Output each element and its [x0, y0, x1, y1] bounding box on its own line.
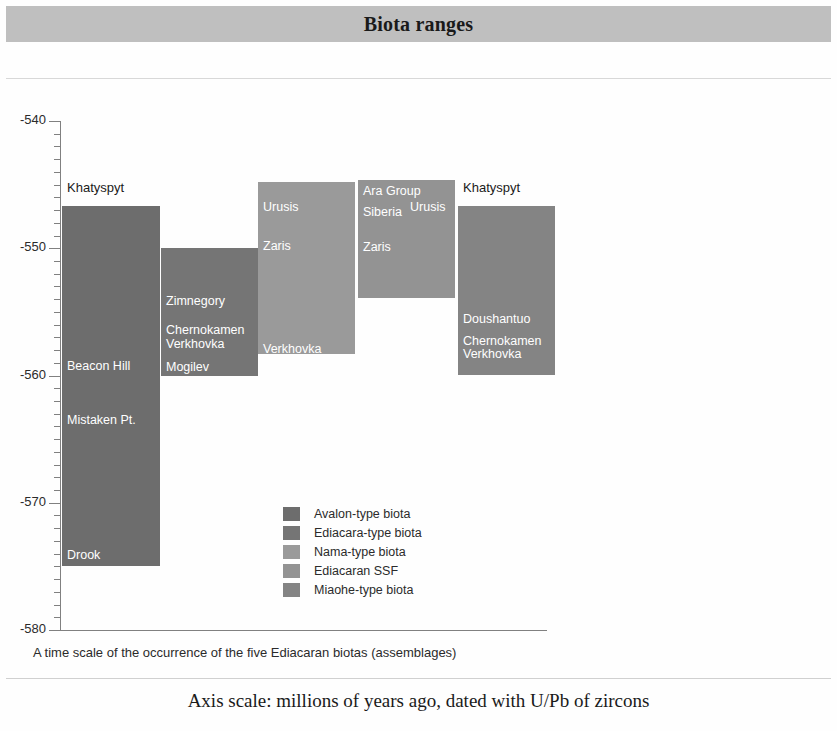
y-tick-minor: [54, 299, 60, 300]
y-tick-minor: [54, 401, 60, 402]
y-tick-major: [49, 503, 60, 504]
bar-annotation: Chernokamen: [166, 323, 245, 337]
bar-annotation: Doushantuo: [463, 312, 530, 326]
legend-swatch-icon: [283, 507, 300, 521]
y-tick-minor: [54, 350, 60, 351]
y-tick-minor: [54, 363, 60, 364]
legend-item[interactable]: Nama-type biota: [283, 542, 422, 561]
y-axis-label: -550: [0, 239, 46, 254]
bar-annotation: Mistaken Pt.: [67, 413, 136, 427]
legend-label: Miaohe-type biota: [314, 583, 413, 597]
y-tick-minor: [54, 261, 60, 262]
bar-annotation: Ara Group: [363, 184, 421, 198]
y-tick-major: [49, 121, 60, 122]
y-tick-minor: [54, 477, 60, 478]
y-tick-minor: [54, 452, 60, 453]
bar-annotation: Zimnegory: [166, 294, 225, 308]
y-tick-minor: [54, 592, 60, 593]
bar-annotation: Urusis: [410, 200, 445, 214]
y-tick-minor: [54, 312, 60, 313]
y-tick-minor: [54, 172, 60, 173]
y-tick-minor: [54, 554, 60, 555]
y-tick-minor: [54, 223, 60, 224]
legend-swatch-icon: [283, 583, 300, 597]
legend-label: Avalon-type biota: [314, 507, 410, 521]
legend-item[interactable]: Ediacaran SSF: [283, 561, 422, 580]
bar-annotation: Zaris: [363, 240, 391, 254]
y-axis-label: -540: [0, 112, 46, 127]
y-tick-minor: [54, 515, 60, 516]
legend-item[interactable]: Miaohe-type biota: [283, 580, 422, 599]
bar-annotation: Mogilev: [166, 360, 209, 374]
y-tick-minor: [54, 617, 60, 618]
y-tick-minor: [54, 426, 60, 427]
y-tick-minor: [54, 465, 60, 466]
bar-annotation: Khatyspyt: [463, 180, 520, 195]
y-tick-minor: [54, 414, 60, 415]
y-tick-minor: [54, 185, 60, 186]
legend-label: Ediacara-type biota: [314, 526, 422, 540]
y-tick-major: [49, 248, 60, 249]
y-tick-minor: [54, 286, 60, 287]
y-tick-minor: [54, 566, 60, 567]
legend-label: Nama-type biota: [314, 545, 406, 559]
figure-caption: A time scale of the occurrence of the fi…: [33, 645, 456, 660]
y-tick-minor: [54, 197, 60, 198]
y-tick-minor: [54, 439, 60, 440]
y-tick-minor: [54, 528, 60, 529]
x-axis-line: [60, 630, 547, 631]
y-tick-minor: [54, 605, 60, 606]
divider-bottom: [6, 678, 831, 679]
bar-annotation: Siberia: [363, 205, 402, 219]
chart-legend: Avalon-type biotaEdiacara-type biotaNama…: [283, 504, 422, 599]
bar-annotation: Urusis: [263, 200, 298, 214]
bar-annotation: Drook: [67, 548, 100, 562]
y-tick-major: [49, 630, 60, 631]
bar-avalon-type-biota[interactable]: [62, 206, 160, 566]
legend-item[interactable]: Avalon-type biota: [283, 504, 422, 523]
axis-scale-note: Axis scale: millions of years ago, dated…: [0, 690, 837, 712]
figure-page: Biota ranges -540-550-560-570-580 Khatys…: [0, 0, 837, 731]
legend-label: Ediacaran SSF: [314, 564, 398, 578]
y-tick-minor: [54, 579, 60, 580]
y-tick-minor: [54, 210, 60, 211]
y-axis-label: -560: [0, 367, 46, 382]
y-tick-minor: [54, 388, 60, 389]
bar-annotation: Beacon Hill: [67, 359, 130, 373]
y-axis-label: -580: [0, 621, 46, 636]
bar-annotation: Verkhovka: [463, 347, 521, 361]
y-tick-minor: [54, 541, 60, 542]
y-tick-minor: [54, 146, 60, 147]
y-tick-major: [49, 376, 60, 377]
bar-annotation: Khatyspyt: [67, 180, 124, 195]
y-tick-minor: [54, 159, 60, 160]
legend-item[interactable]: Ediacara-type biota: [283, 523, 422, 542]
bar-ediacara-type-biota[interactable]: [161, 248, 258, 375]
legend-swatch-icon: [283, 545, 300, 559]
y-axis-label: -570: [0, 494, 46, 509]
legend-swatch-icon: [283, 564, 300, 578]
legend-swatch-icon: [283, 526, 300, 540]
y-tick-minor: [54, 490, 60, 491]
y-tick-minor: [54, 274, 60, 275]
y-tick-minor: [54, 325, 60, 326]
bar-annotation: Verkhovka: [263, 342, 321, 356]
y-tick-minor: [54, 134, 60, 135]
y-tick-minor: [54, 236, 60, 237]
y-tick-minor: [54, 337, 60, 338]
y-axis-line: [60, 121, 61, 631]
bar-annotation: Zaris: [263, 239, 291, 253]
bar-annotation: Verkhovka: [166, 337, 224, 351]
